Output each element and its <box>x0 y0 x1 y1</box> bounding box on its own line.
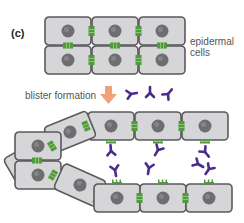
lower-basal-layer <box>94 180 232 213</box>
epidermal-label-line1: epidermal <box>190 36 234 47</box>
intact-cell-sheet <box>45 17 185 74</box>
left-cell-column <box>15 132 107 207</box>
down-arrow-icon <box>100 86 117 104</box>
epidermal-label-line2: cells <box>190 47 234 58</box>
epidermal-cells-label: epidermal cells <box>190 36 234 58</box>
blister-formation-label: blister formation <box>25 90 96 101</box>
diagram-canvas <box>0 0 244 223</box>
antibodies-free <box>126 87 175 100</box>
antibodies-bound <box>106 145 214 177</box>
